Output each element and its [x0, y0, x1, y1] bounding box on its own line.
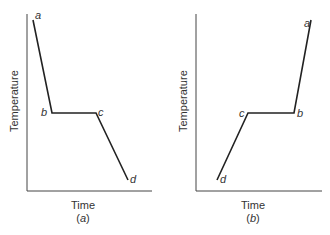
x-axis-label: Time [241, 199, 265, 211]
point-label-a: a [35, 9, 41, 21]
y-axis-label: Temperature [8, 70, 20, 132]
heating-curve [217, 20, 311, 180]
point-label-b: b [297, 107, 303, 119]
panel-caption: (a) [76, 212, 89, 224]
panel-caption: (b) [246, 212, 259, 224]
point-label-c: c [239, 107, 245, 119]
x-axis-label: Time [71, 199, 95, 211]
point-label-c: c [98, 106, 104, 118]
point-label-d: d [220, 173, 227, 185]
panel-b: a b c d Temperature Time (b) [177, 14, 322, 224]
point-label-d: d [130, 173, 137, 185]
point-label-a: a [304, 17, 310, 29]
cooling-curve [33, 20, 128, 180]
y-axis-label: Temperature [177, 70, 189, 132]
figure: a b c d Temperature Time (a) a b c d Tem… [0, 0, 330, 235]
point-label-b: b [41, 106, 47, 118]
panel-a: a b c d Temperature Time (a) [8, 9, 152, 224]
